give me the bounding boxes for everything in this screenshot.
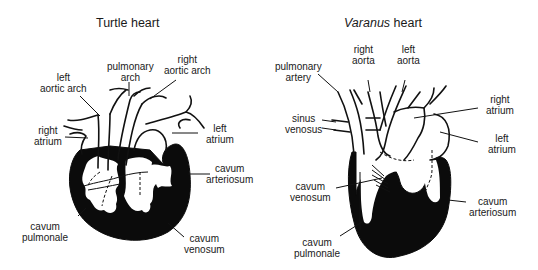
label-varanus-left-atrium: leftatrium [488,134,516,155]
varanus-heart-drawing [318,74,478,258]
label-varanus-cavum-arteriosum: cavumarteriosum [469,197,516,218]
label-turtle-right-aortic-arch: rightaortic arch [164,55,211,76]
label-varanus-right-atrium: rightatrium [486,95,514,116]
label-turtle-right-atrium: rightatrium [34,126,62,147]
label-varanus-sinus-venosus: sinusvenosus [285,114,322,135]
varanus-title-rest: heart [390,16,422,30]
label-varanus-cavum-venosum: cavumvenosum [290,182,331,203]
label-turtle-pulmonary-arch: pulmonaryarch [107,62,154,83]
label-turtle-left-atrium: leftatrium [206,124,234,145]
varanus-title-italic: Varanus [344,16,390,30]
label-varanus-left-aorta: leftaorta [397,45,420,66]
label-turtle-cavum-arteriosum: cavumarteriosum [206,164,253,185]
label-varanus-cavum-pulmonale: cavumpulmonale [294,238,340,259]
label-varanus-right-aorta: rightaorta [352,45,375,66]
varanus-title: Varanus heart [344,16,422,30]
label-turtle-cavum-pulmonale: cavumpulmonale [22,222,68,243]
label-varanus-pulmonary-artery: pulmonaryartery [275,62,322,83]
label-turtle-left-aortic-arch: leftaortic arch [40,73,87,94]
turtle-title: Turtle heart [96,16,159,30]
label-turtle-cavum-venosum: cavumvenosum [184,234,225,255]
heart-diagrams [0,0,538,270]
turtle-heart-drawing [64,80,210,240]
